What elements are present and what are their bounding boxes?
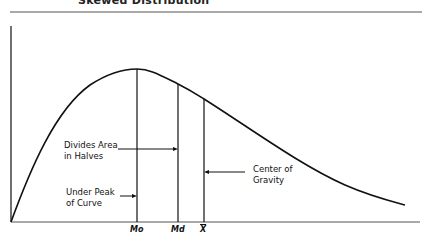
- median-arrowhead-icon: [173, 147, 178, 151]
- center-gravity-line2: Gravity: [253, 175, 293, 186]
- mode-arrowhead-icon: [132, 194, 137, 198]
- mean-arrowhead-icon: [204, 170, 209, 174]
- skewed-distribution-diagram: [0, 0, 428, 236]
- under-peak-label: Under Peak of Curve: [66, 187, 115, 209]
- mean-tick-label: X: [200, 225, 206, 234]
- divides-area-line1: Divides Area: [64, 140, 118, 151]
- under-peak-line1: Under Peak: [66, 187, 115, 198]
- median-tick-label: Md: [171, 225, 185, 234]
- divides-area-line2: in Halves: [64, 151, 118, 162]
- divides-area-label: Divides Area in Halves: [64, 140, 118, 162]
- mode-tick-label: Mo: [130, 225, 143, 234]
- center-gravity-line1: Center of: [253, 164, 293, 175]
- center-gravity-label: Center of Gravity: [253, 164, 293, 186]
- under-peak-line2: of Curve: [66, 198, 115, 209]
